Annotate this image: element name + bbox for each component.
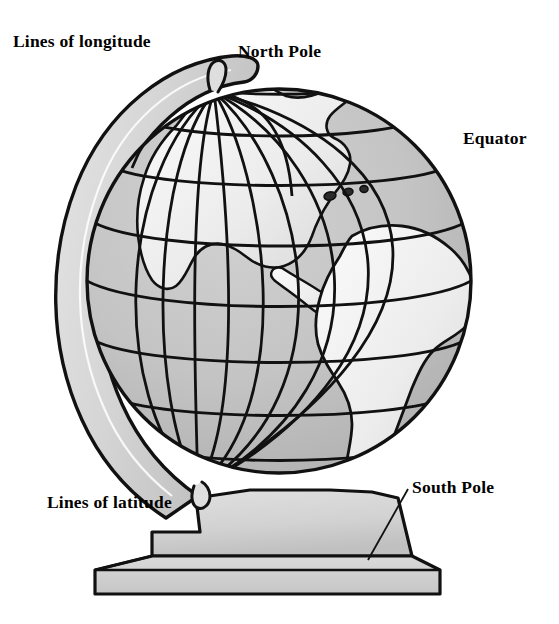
label-lines-of-latitude: Lines of latitude (47, 494, 172, 512)
south-pole-pin (192, 482, 210, 508)
globe-diagram-figure: Lines of longitude North Pole Equator Li… (0, 0, 559, 624)
label-lines-of-longitude: Lines of longitude (13, 33, 151, 51)
label-equator: Equator (463, 130, 527, 148)
plinth (95, 556, 440, 594)
label-south-pole: South Pole (412, 479, 494, 497)
globe-illustration (0, 0, 559, 624)
island-speck-3 (360, 186, 368, 193)
label-north-pole: North Pole (238, 43, 321, 61)
south-pole-axle (192, 482, 210, 508)
globe-sphere (87, 82, 476, 500)
